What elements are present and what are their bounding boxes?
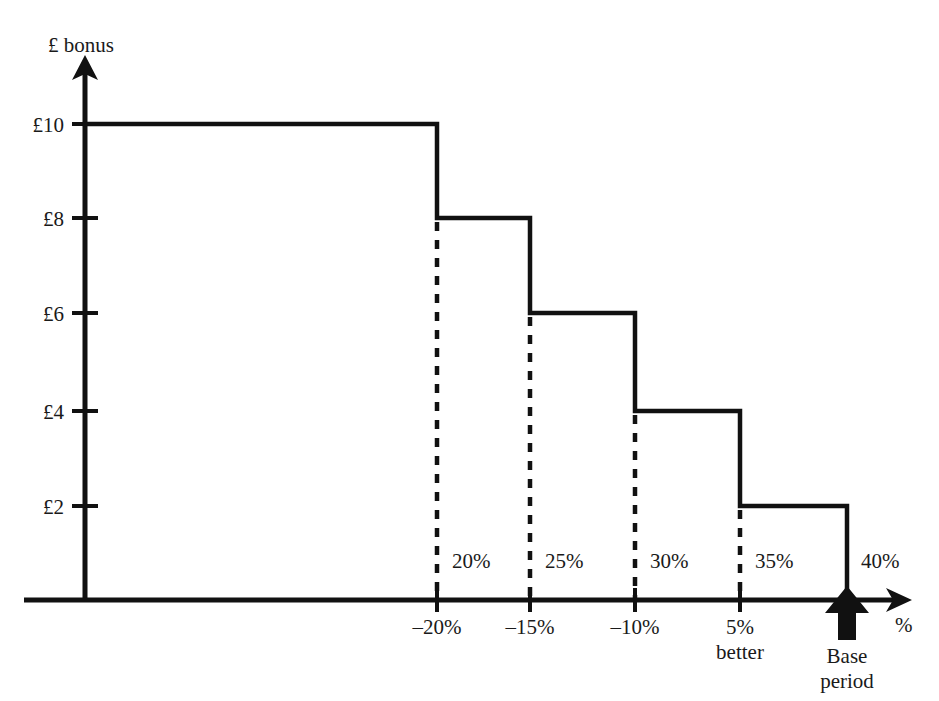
x-tick-label: 5% <box>726 615 754 639</box>
bonus-step-chart: £ bonus % £10 £8 £6 £4 £2 –20% –15% –10%… <box>0 0 939 701</box>
band-label: 20% <box>452 549 491 573</box>
band-label: 35% <box>755 549 794 573</box>
y-tick-label: £4 <box>43 400 65 424</box>
x-tick-label: –10% <box>610 615 660 639</box>
y-axis-title: £ bonus <box>48 33 114 57</box>
x-tick-label: –15% <box>505 615 555 639</box>
band-labels-group: 20% 25% 30% 35% 40% <box>452 549 900 573</box>
base-period-up-arrow-icon <box>825 586 869 640</box>
base-period-label-line2: period <box>820 669 874 693</box>
band-label: 30% <box>650 549 689 573</box>
x-axis-title: % <box>895 613 913 637</box>
base-period-label-line1: Base <box>827 644 868 668</box>
axes-group <box>24 55 912 612</box>
x-tick-label: –20% <box>412 615 462 639</box>
y-ticks-group: £10 £8 £6 £4 £2 <box>33 113 99 519</box>
step-function-line <box>85 124 847 600</box>
band-label: 25% <box>545 549 584 573</box>
y-tick-label: £6 <box>43 302 64 326</box>
chart-container: £ bonus % £10 £8 £6 £4 £2 –20% –15% –10%… <box>0 0 939 701</box>
y-tick-label: £10 <box>33 113 65 137</box>
band-label: 40% <box>861 549 900 573</box>
y-tick-label: £2 <box>43 495 64 519</box>
y-tick-label: £8 <box>43 207 64 231</box>
x-tick-sublabel: better <box>716 640 764 664</box>
